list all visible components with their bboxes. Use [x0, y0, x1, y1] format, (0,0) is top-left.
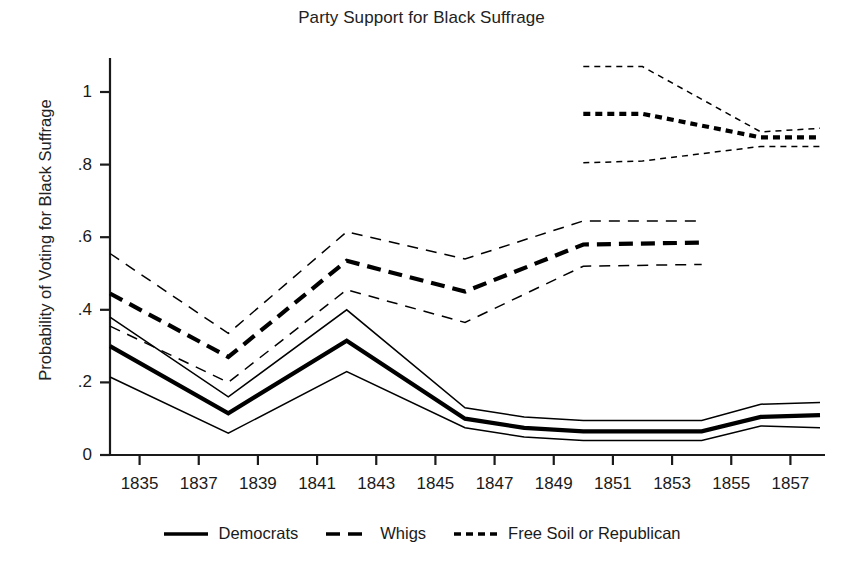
- x-axis-tick-label: 1857: [771, 474, 809, 494]
- confidence-lower-bound: [583, 146, 820, 162]
- series-democrats: [110, 310, 820, 441]
- x-axis-tick-label: 1847: [476, 474, 514, 494]
- y-axis-tick-label: .2: [58, 372, 92, 392]
- x-axis-tick-label: 1841: [298, 474, 336, 494]
- x-axis-tick-label: 1843: [357, 474, 395, 494]
- legend-item[interactable]: Whigs: [324, 524, 426, 543]
- legend-item[interactable]: Democrats: [162, 524, 298, 543]
- y-axis-tick-label: .6: [58, 227, 92, 247]
- x-axis-tick-label: 1839: [239, 474, 277, 494]
- x-axis-tick-label: 1855: [712, 474, 750, 494]
- confidence-upper-bound: [110, 221, 702, 334]
- series-free-soil-or-republican: [583, 67, 820, 163]
- y-axis-tick-label: .8: [58, 155, 92, 175]
- x-axis-tick-label: 1851: [594, 474, 632, 494]
- x-axis-tick-label: 1837: [180, 474, 218, 494]
- confidence-upper-bound: [110, 310, 820, 421]
- series-line: [583, 114, 820, 138]
- series-line: [110, 243, 702, 357]
- chart-title: Party Support for Black Suffrage: [0, 8, 843, 28]
- legend-line-swatch-dotted: [452, 527, 500, 541]
- y-axis-label: Probability of Voting for Black Suffrage: [36, 40, 55, 440]
- x-axis-tick-label: 1853: [653, 474, 691, 494]
- legend-label: Whigs: [380, 524, 426, 543]
- legend-line-swatch-dashed: [324, 527, 372, 541]
- axis-spine: [110, 58, 825, 455]
- legend-label: Free Soil or Republican: [508, 524, 680, 543]
- legend-line-swatch-solid: [162, 527, 210, 541]
- y-axis-tick-label: 0: [58, 445, 92, 465]
- y-axis-tick-label: .4: [58, 300, 92, 320]
- chart-figure: Party Support for Black Suffrage Probabi…: [0, 0, 843, 570]
- x-axis-tick-label: 1849: [535, 474, 573, 494]
- confidence-lower-bound: [110, 264, 702, 382]
- x-axis-tick-label: 1835: [121, 474, 159, 494]
- y-axis-tick-label: 1: [58, 82, 92, 102]
- legend-item[interactable]: Free Soil or Republican: [452, 524, 680, 543]
- confidence-upper-bound: [583, 67, 820, 132]
- x-axis-tick-label: 1845: [416, 474, 454, 494]
- legend-label: Democrats: [218, 524, 298, 543]
- chart-legend: DemocratsWhigsFree Soil or Republican: [0, 524, 843, 543]
